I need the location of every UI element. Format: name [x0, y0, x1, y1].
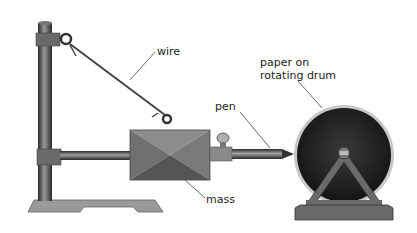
holder-knob-stem: [220, 142, 226, 147]
stand-base: [28, 200, 163, 212]
pen-leader-line: [240, 112, 270, 148]
drum-label-line2: rotating drum: [260, 69, 336, 82]
drum-label-line1: paper on: [260, 56, 309, 69]
wire: [70, 44, 165, 117]
middle-clamp: [37, 149, 61, 165]
mass-eye-hook: [163, 115, 171, 123]
apparatus-diagram: wire pen mass paper on rotating drum: [0, 0, 417, 233]
mass-block: [130, 130, 210, 180]
mass-label: mass: [206, 193, 235, 206]
mass-leader-line: [185, 180, 205, 198]
holder-knob: [217, 133, 229, 143]
pen-holder: [210, 147, 232, 161]
top-eye-hook: [61, 34, 71, 44]
wire-label: wire: [157, 45, 180, 58]
pen: [232, 149, 294, 159]
top-clamp: [36, 33, 60, 46]
rotating-drum: [294, 105, 394, 220]
horizontal-rod: [60, 151, 130, 160]
wire-leader-line: [130, 52, 155, 80]
stand-rod: [38, 21, 52, 201]
pen-label: pen: [215, 100, 236, 113]
drum-leader-line: [298, 81, 322, 108]
